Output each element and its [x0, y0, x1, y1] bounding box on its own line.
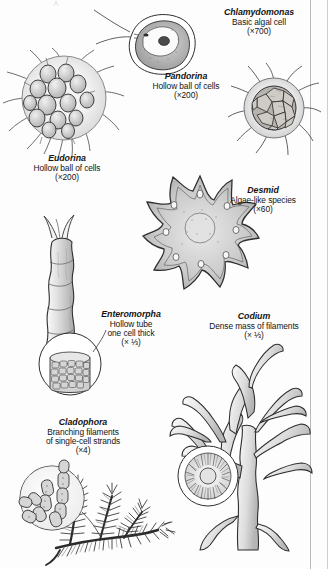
- caption-cladophora: Cladophora Branching filaments of single…: [12, 418, 154, 455]
- caption-chlamydomonas: Chlamydomonas Basic algal cell (×700): [196, 8, 322, 36]
- figure-eudorina: [2, 48, 130, 168]
- top-edge-fragment: [48, 0, 88, 8]
- species-magnification-chlamydomonas: (×700): [196, 27, 322, 36]
- figure-cladophora: [0, 452, 176, 569]
- species-magnification-pandorina: (×200): [124, 91, 248, 100]
- illustration-plate: Chlamydomonas Basic algal cell (×700): [0, 0, 328, 569]
- caption-enteromorpha: Enteromorpha Hollow tube one cell thick …: [78, 310, 184, 347]
- species-magnification-eudorina: (×200): [2, 173, 132, 182]
- species-magnification-codium: (× ⅓): [186, 331, 322, 340]
- caption-pandorina: Pandorina Hollow ball of cells (×200): [124, 72, 248, 100]
- caption-eudorina: Eudorina Hollow ball of cells (×200): [2, 154, 132, 182]
- species-magnification-enteromorpha: (× ⅓): [78, 338, 184, 347]
- figure-enteromorpha: [14, 212, 116, 394]
- species-magnification-desmid: (×60): [204, 205, 322, 214]
- caption-codium: Codium Dense mass of filaments (× ⅓): [186, 312, 322, 340]
- species-magnification-cladophora: (×4): [12, 446, 154, 455]
- caption-desmid: Desmid Algae-like species (×60): [204, 186, 322, 214]
- figure-codium: [170, 338, 316, 552]
